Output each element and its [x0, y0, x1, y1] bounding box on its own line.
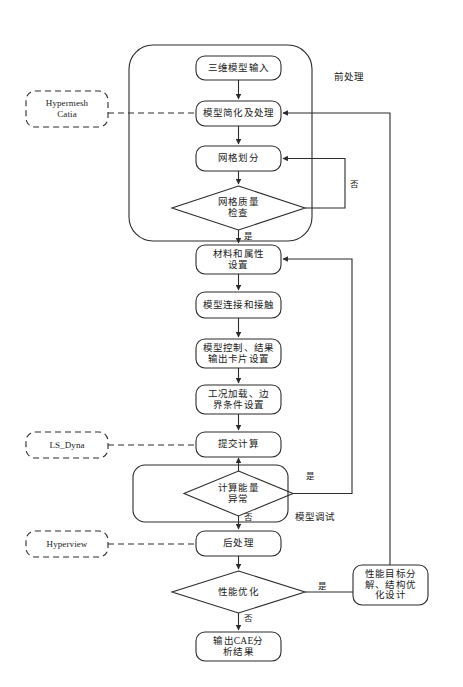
- edge-energy-yes-loop: [283, 259, 352, 494]
- hit-ext-ls-dyna[interactable]: [26, 432, 108, 458]
- hit-energy-abnormal[interactable]: [184, 471, 293, 516]
- hit-model-control[interactable]: [196, 339, 281, 368]
- flowchart-canvas: 前处理 模型调试 Hypermesh Catia LS_Dyna Hypervi…: [0, 0, 463, 687]
- hit-post-processing[interactable]: [196, 531, 281, 556]
- hit-material-property[interactable]: [196, 245, 281, 274]
- hit-ext-hyperview[interactable]: [26, 531, 108, 557]
- hit-load-boundary[interactable]: [196, 385, 281, 414]
- hit-perf-optimize[interactable]: [172, 571, 305, 613]
- hit-output-cae[interactable]: [196, 632, 281, 661]
- hit-mesh-quality-check[interactable]: [172, 186, 305, 230]
- edge-perf-target-to-simplify: [283, 113, 390, 565]
- hit-model-input[interactable]: [196, 56, 281, 80]
- hit-model-connect[interactable]: [196, 292, 281, 318]
- hit-perf-target[interactable]: [353, 565, 428, 605]
- hit-mesh-division[interactable]: [196, 146, 281, 171]
- hit-model-simplify[interactable]: [196, 101, 281, 126]
- hit-submit-calc[interactable]: [196, 432, 281, 457]
- hit-ext-hypermesh-catia[interactable]: [26, 91, 108, 127]
